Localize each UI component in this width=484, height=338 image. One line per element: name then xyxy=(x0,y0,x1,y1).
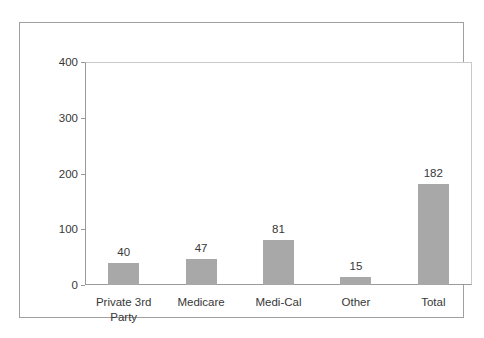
y-tick-label: 300 xyxy=(40,111,78,124)
y-tick-mark xyxy=(81,118,85,119)
y-tick-label: 0 xyxy=(40,279,78,292)
y-tick-mark xyxy=(81,229,85,230)
category-label: Medicare xyxy=(162,295,240,310)
category-label: Private 3rd Party xyxy=(85,295,163,325)
bar-other xyxy=(340,277,371,285)
chart-frame: 0100200300400 40478115182 Private 3rd Pa… xyxy=(19,22,464,318)
bar-medicare xyxy=(186,259,217,285)
data-label: 81 xyxy=(272,223,285,236)
category-label: Total xyxy=(394,295,472,310)
y-tick-label: 400 xyxy=(40,56,78,69)
data-label: 15 xyxy=(349,260,362,273)
data-label: 47 xyxy=(195,242,208,255)
data-label: 40 xyxy=(117,246,130,259)
data-label: 182 xyxy=(424,167,443,180)
y-tick-label: 200 xyxy=(40,167,78,180)
y-tick-label: 100 xyxy=(40,223,78,236)
bar-medi-cal xyxy=(263,240,294,285)
y-tick-mark xyxy=(81,285,85,286)
category-label: Medi-Cal xyxy=(240,295,318,310)
bar-total xyxy=(418,184,449,285)
chart-canvas: 0100200300400 40478115182 Private 3rd Pa… xyxy=(0,0,484,338)
category-label: Other xyxy=(317,295,395,310)
y-tick-mark xyxy=(81,174,85,175)
bar-private-3rd-party xyxy=(108,263,139,285)
y-tick-mark xyxy=(81,62,85,63)
